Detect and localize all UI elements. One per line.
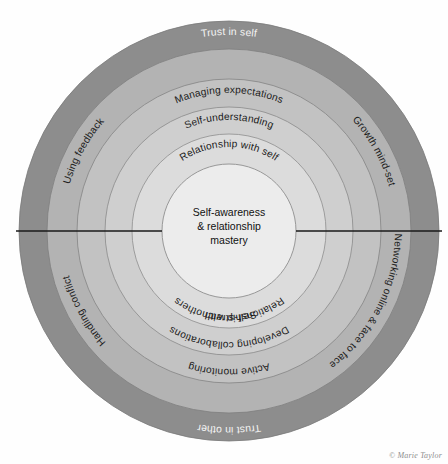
wheel-svg: Trust in self Trust in other Using feedb… bbox=[0, 0, 448, 464]
copyright-credit: © Marie Taylor bbox=[389, 451, 442, 460]
core-text-line-3: mastery bbox=[210, 234, 248, 246]
concentric-wheel-diagram: Trust in self Trust in other Using feedb… bbox=[0, 0, 448, 464]
core-text-line-1: Self-awareness bbox=[193, 206, 265, 218]
core-text-line-2: & relationship bbox=[197, 220, 261, 232]
label-trust-in-self: Trust in self bbox=[200, 26, 257, 39]
